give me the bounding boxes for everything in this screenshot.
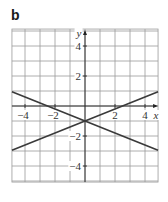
x-axis-arrow-icon	[153, 104, 158, 108]
y-axis-label: y	[76, 27, 82, 39]
x-tick-label: 2	[112, 109, 118, 121]
y-tick-label: −2	[69, 130, 81, 142]
y-tick-label: 2	[76, 70, 82, 82]
axes	[12, 30, 158, 182]
graph-plot: −4−22442−2−4xy	[0, 0, 168, 202]
x-tick-label: 4	[142, 109, 148, 121]
y-tick-label: −4	[69, 160, 81, 172]
x-axis-label: x	[153, 109, 159, 121]
y-tick-label: 4	[76, 40, 82, 52]
x-tick-label: −2	[47, 109, 59, 121]
x-tick-label: −4	[17, 109, 29, 121]
